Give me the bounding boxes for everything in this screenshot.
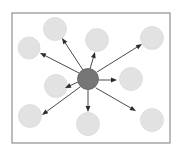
node-bottom-left (19, 105, 42, 128)
central-node (78, 69, 99, 90)
node-mid-left (45, 75, 68, 98)
node-bottom-right (141, 109, 164, 132)
node-top-center (44, 18, 67, 41)
node-top-right-in (86, 29, 109, 52)
node-top-right (141, 27, 164, 50)
node-mid-right (120, 68, 143, 91)
node-top-left (18, 37, 40, 59)
figure-root (0, 0, 183, 159)
diagram-canvas (0, 0, 183, 159)
node-bottom-center (77, 113, 100, 136)
